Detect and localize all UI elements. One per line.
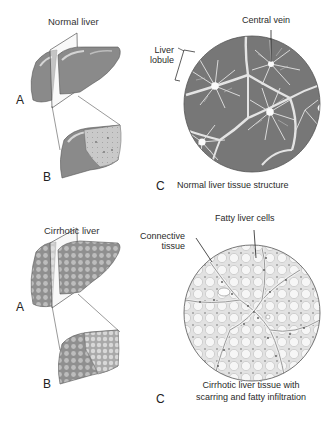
normal-caption-c: Normal liver tissue structure xyxy=(177,181,289,191)
cirrhotic-label-c: C xyxy=(156,392,165,406)
cirrhotic-label-a: A xyxy=(16,300,24,314)
liver-lobule-label-line2: lobule xyxy=(144,56,174,66)
normal-label-b: B xyxy=(43,170,51,184)
cirrhotic-tissue-circle xyxy=(184,230,320,381)
cirrhotic-liver-title: Cirrhotic liver xyxy=(44,225,99,236)
cirrhotic-label-b: B xyxy=(43,377,51,391)
fatty-cells-label: Fatty liver cells xyxy=(215,214,275,224)
cirrhotic-caption-c-line2: scarring and fatty infiltration xyxy=(173,393,327,403)
connective-tissue-label-line2: tissue xyxy=(130,242,185,252)
normal-label-c: C xyxy=(156,179,165,193)
cirrhotic-caption-c-line1: Cirrhotic liver tissue with xyxy=(173,381,327,391)
central-vein-label: Central vein xyxy=(242,16,290,26)
normal-liver-title: Normal liver xyxy=(48,16,99,27)
cirrhotic-liver-section xyxy=(58,330,119,384)
normal-liver-section xyxy=(60,125,121,178)
normal-tissue-circle xyxy=(175,30,320,172)
connective-tissue-leader xyxy=(196,238,212,262)
normal-label-a: A xyxy=(16,93,24,107)
